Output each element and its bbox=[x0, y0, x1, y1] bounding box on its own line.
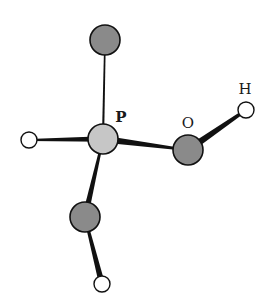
bonds-layer bbox=[29, 40, 247, 285]
atom-label-phosphorus: P bbox=[115, 108, 126, 126]
molecule-diagram: P O H bbox=[0, 0, 266, 298]
atom-oxygen-o3 bbox=[70, 202, 100, 232]
atom-oxygen-o1 bbox=[90, 25, 120, 55]
atom-hydrogen-h2 bbox=[238, 102, 254, 118]
atom-oxygen-o2 bbox=[173, 135, 203, 165]
atom-hydrogen-h3 bbox=[94, 276, 110, 292]
atom-phosphorus-p bbox=[88, 124, 118, 154]
atom-label-hydrogen: H bbox=[238, 80, 251, 98]
atom-label-oxygen: O bbox=[182, 114, 194, 132]
atoms-layer bbox=[21, 25, 254, 292]
molecule-canvas: P O H bbox=[0, 0, 266, 298]
atom-hydrogen-h1 bbox=[21, 132, 37, 148]
labels-layer: P O H bbox=[115, 80, 251, 132]
